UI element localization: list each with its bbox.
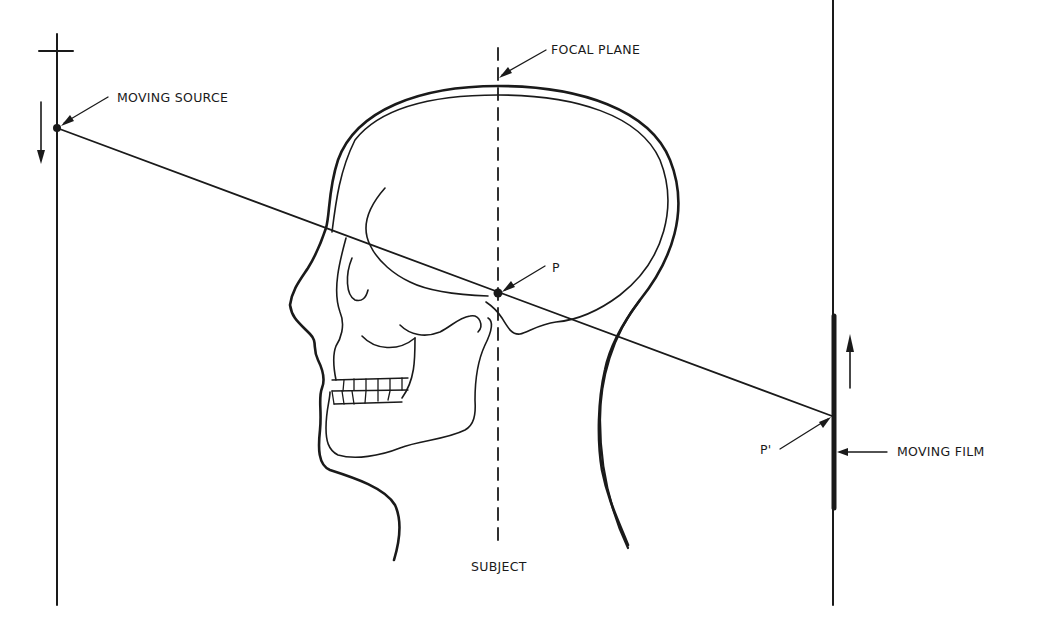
film-motion-arrow-up-icon (846, 334, 854, 388)
skull-ramus (402, 338, 415, 398)
leader-moving-source (61, 97, 108, 126)
film-track (833, 0, 834, 605)
leader-point-p-prime (780, 417, 831, 449)
tomography-diagram: MOVING SOURCE FOCAL PLANE P P' MOVING FI… (0, 0, 1051, 635)
label-focal-plane: FOCAL PLANE (551, 44, 640, 57)
point-p (494, 289, 503, 298)
leader-moving-film (837, 448, 887, 456)
skull-orbit-inner (347, 258, 368, 301)
label-moving-film: MOVING FILM (897, 446, 985, 459)
leader-point-p (502, 266, 545, 292)
skull-maxilla (334, 238, 346, 380)
label-moving-source: MOVING SOURCE (117, 92, 228, 105)
label-point-p: P (552, 262, 560, 275)
skull-cheek (362, 336, 415, 348)
skull-orbit (366, 188, 488, 296)
label-point-p-prime: P' (760, 444, 772, 457)
skull-cranium (332, 95, 668, 334)
x-ray-path (57, 128, 832, 416)
label-subject: SUBJECT (471, 561, 527, 574)
source-motion-arrow-down-icon (37, 102, 45, 164)
skull-teeth (332, 378, 408, 404)
leader-focal-plane (499, 50, 546, 78)
skull-zygomatic-arch (400, 316, 481, 335)
